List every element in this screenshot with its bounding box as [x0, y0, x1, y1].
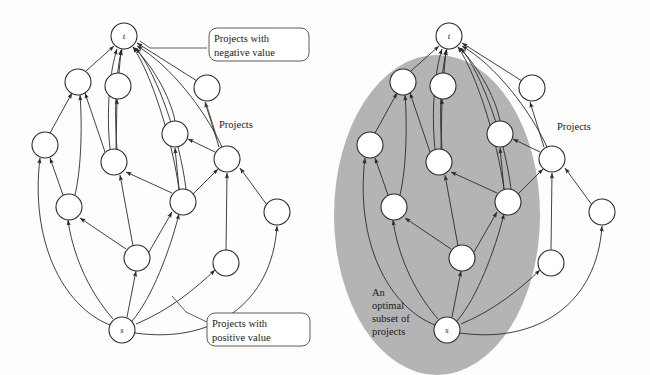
- node-n12[interactable]: [213, 250, 239, 276]
- project-selection-figure: t s Projects with negative value Project…: [0, 0, 650, 375]
- r-node-n7[interactable]: [539, 146, 565, 172]
- edge-n11-n8: [80, 218, 126, 249]
- r-node-n12[interactable]: [538, 250, 564, 276]
- r-node-n10[interactable]: [589, 199, 615, 225]
- edge-n9-n7: [193, 169, 218, 194]
- r-node-n11[interactable]: [449, 245, 475, 271]
- edge-n3-t: [137, 43, 197, 81]
- r-node-n8[interactable]: [381, 194, 407, 220]
- edge-n10-n7: [240, 168, 267, 205]
- edge-n8-n1: [75, 95, 81, 195]
- node-n4[interactable]: [32, 132, 58, 158]
- left-panel: t s Projects with negative value Project…: [32, 23, 310, 346]
- edge-n11-n9: [149, 212, 172, 252]
- r-node-s-label: s: [445, 325, 449, 335]
- edge-n1-t: [86, 46, 114, 71]
- edge-n7-n3: [205, 102, 219, 147]
- r-node-n9[interactable]: [495, 189, 521, 215]
- edge-n8-n4: [50, 158, 63, 195]
- optimal-subset-line3: subset of: [372, 313, 410, 324]
- r-node-n4[interactable]: [357, 132, 383, 158]
- optimal-subset-line1: An: [372, 287, 386, 298]
- callout-negative-projects: Projects with negative value: [140, 28, 309, 61]
- node-s-label: s: [120, 325, 124, 335]
- node-n7[interactable]: [214, 146, 240, 172]
- node-n11[interactable]: [124, 245, 150, 271]
- edge-n7-n5: [188, 139, 215, 152]
- r-node-n6[interactable]: [426, 149, 452, 175]
- callout-positive-line2: positive value: [212, 332, 271, 343]
- annotation-projects-left: Projects: [206, 103, 253, 138]
- annotation-projects-right: Projects: [557, 121, 591, 132]
- r-edge-n7-n3: [530, 102, 544, 147]
- node-n2[interactable]: [105, 73, 131, 99]
- node-n6[interactable]: [101, 149, 127, 175]
- edge-s-n8: [68, 220, 113, 319]
- callout-negative-leader: [140, 41, 207, 48]
- callout-negative-line2: negative value: [214, 47, 275, 58]
- annotation-projects-left-text: Projects: [219, 119, 253, 130]
- figure-canvas: t s Projects with negative value Project…: [0, 0, 650, 375]
- node-n1[interactable]: [65, 69, 91, 95]
- callout-positive-leader: [172, 296, 207, 322]
- r-node-n3[interactable]: [519, 75, 545, 101]
- callout-negative-line1: Projects with: [214, 33, 270, 44]
- edge-n11-n6: [120, 175, 133, 246]
- node-n9[interactable]: [170, 189, 196, 215]
- r-edge-n12-n7: [551, 173, 552, 250]
- r-edge-n10-n7: [565, 168, 592, 205]
- callout-positive-line1: Projects with: [212, 318, 268, 329]
- edge-s-n4: [38, 158, 110, 325]
- edge-n9-n6: [126, 172, 172, 193]
- r-node-n1[interactable]: [390, 69, 416, 95]
- r-node-n5[interactable]: [487, 121, 513, 147]
- edge-s-n11: [127, 271, 136, 317]
- node-n3[interactable]: [194, 75, 220, 101]
- callout-positive-projects: Projects with positive value: [172, 296, 310, 346]
- node-n5[interactable]: [162, 121, 188, 147]
- annotation-projects-right-text: Projects: [557, 121, 591, 132]
- optimal-subset-line2: optimal: [372, 300, 404, 311]
- edge-n9-t-a: [133, 47, 179, 189]
- r-node-n2[interactable]: [430, 73, 456, 99]
- edge-n6-n1: [85, 93, 105, 152]
- edge-n12-n7: [226, 173, 227, 250]
- node-n8[interactable]: [56, 194, 82, 220]
- edge-n4-n1: [50, 93, 72, 133]
- optimal-subset-line4: projects: [372, 326, 405, 337]
- node-n10[interactable]: [264, 199, 290, 225]
